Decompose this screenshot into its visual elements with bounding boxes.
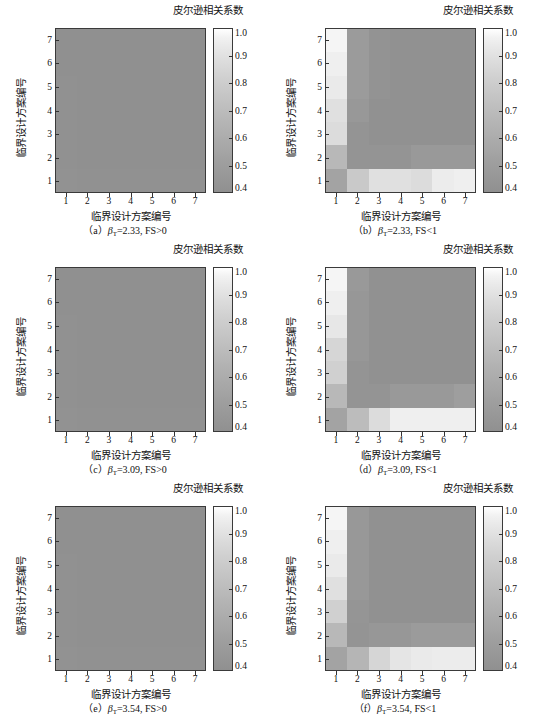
heatmap-cell [99,76,120,99]
x-tick-label: 7 [463,435,468,445]
panel-caption-a: （a）βT=2.33, FS>0 [0,222,250,237]
colorbar-tick-labels: 1.00.90.80.70.60.50.4 [505,267,529,432]
colorbar-tick-labels: 1.00.90.80.70.60.50.4 [505,506,529,671]
heatmap-cell [369,384,390,407]
heatmap-cell [120,623,141,646]
caption-index: （f） [354,703,377,714]
y-tick-label: 7 [306,274,322,284]
y-axis-label: 临界设计方案编号 [13,63,28,173]
panel-caption-f: （f）βT=3.54, FS<1 [270,700,520,715]
x-tick-label: 6 [441,435,446,445]
heatmap-cell [390,623,411,646]
heatmap-cell [162,338,183,361]
heatmap-cell [390,268,411,291]
heatmap-cell [432,29,453,52]
heatmap-cell [162,52,183,75]
x-tick-label: 1 [63,674,68,684]
heatmap-cell [99,530,120,553]
y-tick-label: 2 [36,631,52,641]
x-tick-label: 7 [193,435,198,445]
y-tick-label: 6 [36,58,52,68]
heatmap-cell [141,530,162,553]
y-tick-label: 2 [306,392,322,402]
heatmap-cell [77,554,98,577]
caption-beta-subscript: T [383,469,387,477]
heatmap-cell [141,52,162,75]
heatmap-cell [432,268,453,291]
colorbar-tick-label: 0.7 [235,106,247,116]
heatmap-cell [390,169,411,192]
y-axis-ticks [55,28,60,193]
colorbar-tick-label: 0.4 [505,422,517,432]
heatmap-cell [99,291,120,314]
colorbar-tick-label: 0.5 [235,639,247,649]
heatmap-cell [99,361,120,384]
heatmap-cell [454,554,475,577]
panel-caption-d: （d）βT=3.09, FS<1 [270,461,520,476]
heatmap-cell [454,99,475,122]
y-axis-ticks [325,28,330,193]
x-tick-label: 2 [355,196,360,206]
heatmap-cell [347,52,368,75]
heatmap-cell [77,291,98,314]
y-axis-ticks [55,506,60,671]
colorbar-gradient [484,29,502,192]
heatmap-cell [369,99,390,122]
heatmap-cell [454,315,475,338]
colorbar [483,267,503,432]
heatmap-cell [369,408,390,431]
colorbar-gradient [214,268,232,431]
heatmap-cell [411,76,432,99]
heatmap-cell [99,169,120,192]
heatmap-cell [99,145,120,168]
heatmap-cell [390,52,411,75]
heatmap-cell [77,29,98,52]
x-tick-label: 5 [150,435,155,445]
x-tick-label: 6 [171,435,176,445]
colorbar-tick-label: 1.0 [505,267,517,277]
colorbar [483,28,503,193]
colorbar-tick-label: 0.8 [505,317,517,327]
heatmap-cell [120,268,141,291]
x-axis-label: 临界设计方案编号 [325,208,476,223]
heatmap-cell [347,408,368,431]
heatmap-cell [162,384,183,407]
heatmap-cell [184,554,205,577]
heatmap-cell [369,647,390,670]
x-tick-label: 2 [85,674,90,684]
heatmap-cell [369,507,390,530]
heatmap-plot-area-a [55,28,206,193]
caption-beta-subscript: T [383,230,387,238]
heatmap-cell [77,338,98,361]
heatmap-cell [411,577,432,600]
heatmap-plot-area-b [325,28,476,193]
heatmap-cell [411,530,432,553]
heatmap-cell [184,600,205,623]
heatmap-cell [77,361,98,384]
heatmap-cell [184,145,205,168]
heatmap-cell [369,577,390,600]
heatmap-cell [432,361,453,384]
heatmap-cell [77,315,98,338]
caption-beta-symbol: β [108,225,113,236]
heatmap-cell [141,361,162,384]
heatmap-cell [99,338,120,361]
heatmap-cell [120,507,141,530]
heatmap-cell [390,29,411,52]
heatmap-cell [432,99,453,122]
heatmap-cell [454,530,475,553]
y-tick-label: 7 [36,35,52,45]
x-tick-label: 6 [171,674,176,684]
heatmap-cell [369,338,390,361]
y-axis-tick-labels: 1234567 [36,28,52,193]
heatmap-cell [411,623,432,646]
y-axis-label: 临界设计方案编号 [283,302,298,412]
heatmap-cell [77,268,98,291]
x-tick-label: 3 [107,435,112,445]
heatmap-cell [347,315,368,338]
colorbar-tick-label: 1.0 [505,28,517,38]
y-tick-label: 6 [36,297,52,307]
y-tick-label: 3 [306,368,322,378]
heatmap-cell [120,408,141,431]
heatmap-cell [369,315,390,338]
